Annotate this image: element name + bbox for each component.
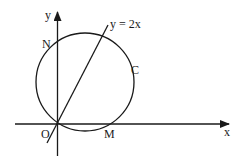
circle-c xyxy=(36,33,134,131)
geometry-diagram: y x O M N C y = 2x xyxy=(0,0,241,164)
point-label-o: O xyxy=(41,127,50,141)
point-label-m: M xyxy=(104,127,115,141)
point-label-n: N xyxy=(42,37,51,51)
x-axis-label: x xyxy=(224,125,230,139)
line-equation-label: y = 2x xyxy=(110,17,141,31)
circle-label-c: C xyxy=(131,63,139,77)
y-axis-label: y xyxy=(45,8,51,22)
